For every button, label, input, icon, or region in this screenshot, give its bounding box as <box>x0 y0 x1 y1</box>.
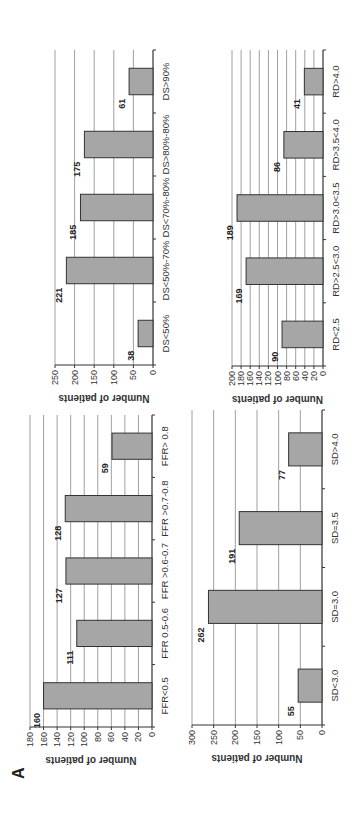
y-tick-label: 180 <box>25 732 35 747</box>
y-axis-title: Number of patients <box>58 393 150 404</box>
bar <box>112 433 152 459</box>
bar <box>304 68 323 95</box>
bar <box>80 194 153 220</box>
y-tick-label: 200 <box>227 371 237 386</box>
y-tick-label: 50 <box>128 370 138 380</box>
bar <box>298 669 322 702</box>
y-tick-label: 60 <box>106 732 116 742</box>
category-label: DS<50% <box>160 314 171 352</box>
bar-value-label: 189 <box>225 225 235 240</box>
y-tick-label: 20 <box>133 732 143 742</box>
y-tick-label: 250 <box>209 730 219 745</box>
category-label: SD<3.0 <box>329 670 340 702</box>
chart-ffr: 020406080100120140160180160FFR<0.5111FFR… <box>25 415 170 766</box>
y-tick-label: 180 <box>236 371 246 386</box>
bar <box>129 68 153 94</box>
category-label: RD>3.0<3.5 <box>330 182 341 233</box>
bar-value-label: 41 <box>292 99 302 109</box>
y-tick-label: 150 <box>252 730 262 745</box>
bar-value-label: 111 <box>65 651 75 665</box>
y-axis-title: Number of patients <box>211 753 303 764</box>
bar-value-label: 262 <box>196 627 206 642</box>
y-tick-label: 0 <box>318 371 328 376</box>
y-tick-label: 80 <box>93 732 103 742</box>
y-tick-label: 120 <box>263 371 273 386</box>
y-tick-label: 100 <box>273 371 283 386</box>
bar-value-label: 160 <box>32 713 42 728</box>
bar <box>65 495 152 521</box>
y-tick-label: 120 <box>66 732 76 747</box>
bar-value-label: 90 <box>270 352 280 362</box>
bar-value-label: 55 <box>286 706 296 716</box>
category-label: DS>80%-80% <box>160 114 171 174</box>
category-label: SD=3.5 <box>329 512 340 544</box>
bar <box>66 257 153 283</box>
category-label: RD>2.5<3.0 <box>330 246 341 297</box>
bar-value-label: 175 <box>72 162 82 177</box>
y-tick-label: 200 <box>70 370 80 385</box>
bar-value-label: 169 <box>234 288 244 303</box>
bar <box>66 558 152 584</box>
bar <box>282 321 323 348</box>
bar-value-label: 128 <box>53 526 63 541</box>
bar <box>84 131 153 157</box>
y-tick-label: 20 <box>309 371 319 381</box>
bar <box>284 132 323 159</box>
bar <box>239 512 322 545</box>
y-tick-label: 140 <box>52 732 62 747</box>
y-tick-label: 160 <box>245 371 255 386</box>
figure-canvas: A 020406080100120140160180160FFR<0.5111F… <box>0 0 358 815</box>
chart-ds: 05010015020025038DS<50%221DS<50%-70%185D… <box>50 50 171 404</box>
category-label: DS>90% <box>160 62 171 100</box>
y-tick-label: 60 <box>291 371 301 381</box>
y-tick-label: 80 <box>282 371 292 381</box>
category-label: DS<70%-80% <box>160 177 171 237</box>
bar <box>138 320 153 346</box>
bar-value-label: 38 <box>126 351 136 361</box>
category-label: SD>4.0 <box>329 433 340 465</box>
y-tick-label: 100 <box>109 370 119 385</box>
bar-value-label: 185 <box>68 225 78 240</box>
bar <box>208 590 322 623</box>
y-tick-label: 0 <box>147 732 157 737</box>
category-label: FFR >0.6-0.7 <box>159 543 170 599</box>
panel-label: A <box>10 767 27 779</box>
y-tick-label: 0 <box>148 370 158 375</box>
y-tick-label: 200 <box>230 730 240 745</box>
category-label: FFR >0.7-0.8 <box>159 480 170 536</box>
chart-sd: 05010015020025030055SD<3.0262SD=3.0191SD… <box>187 410 340 764</box>
category-label: RD>3.5<4.0 <box>330 119 341 170</box>
category-label: FFR 0.5-0.6 <box>159 608 170 659</box>
bar-value-label: 86 <box>272 162 282 172</box>
bar <box>289 433 322 466</box>
bar <box>246 258 323 285</box>
category-label: RD<2.5 <box>330 318 341 350</box>
figure: A 020406080100120140160180160FFR<0.5111F… <box>0 0 358 815</box>
bar-value-label: 191 <box>227 549 237 564</box>
y-axis-title: Number of patients <box>45 755 137 766</box>
bar-value-label: 61 <box>117 99 127 109</box>
y-tick-label: 250 <box>50 370 60 385</box>
y-tick-label: 40 <box>120 732 130 742</box>
y-axis-title: Number of patients <box>232 394 324 405</box>
y-tick-label: 160 <box>39 732 49 747</box>
y-tick-label: 150 <box>89 370 99 385</box>
category-label: FFR<0.5 <box>159 677 170 714</box>
bar-value-label: 59 <box>100 463 110 473</box>
bar <box>44 683 152 709</box>
y-tick-label: 40 <box>300 371 310 381</box>
bar <box>237 195 323 222</box>
bar-value-label: 127 <box>54 588 64 603</box>
bar-value-label: 221 <box>54 288 64 303</box>
y-tick-label: 50 <box>295 730 305 740</box>
y-tick-label: 100 <box>79 732 89 747</box>
bar <box>77 620 152 646</box>
bar-value-label: 77 <box>277 470 287 480</box>
y-tick-label: 0 <box>317 730 327 735</box>
y-tick-label: 140 <box>254 371 264 386</box>
category-label: RD>4.0 <box>330 65 341 97</box>
category-label: DS<50%-70% <box>160 240 171 300</box>
y-tick-label: 300 <box>187 730 197 745</box>
category-label: FFR> 0.8 <box>159 426 170 466</box>
category-label: SD=3.0 <box>329 591 340 623</box>
